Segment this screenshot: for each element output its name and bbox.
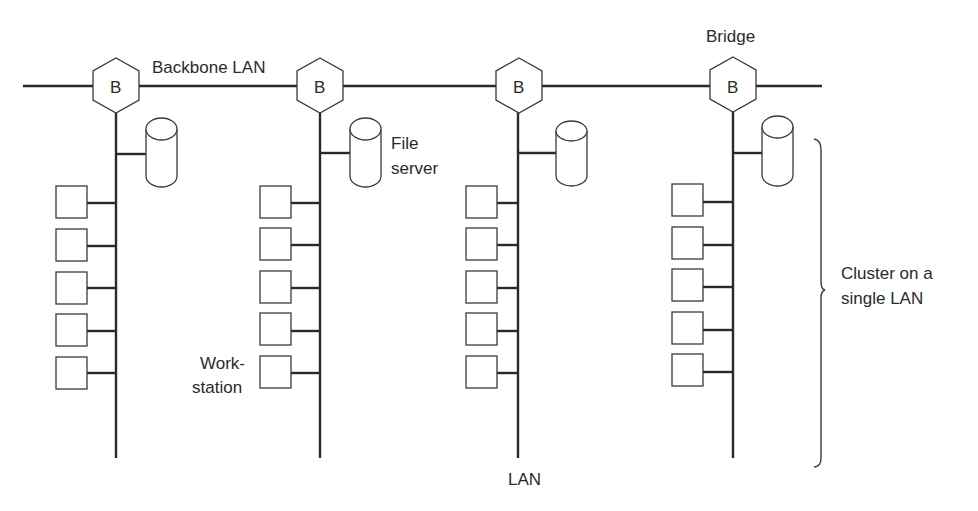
bridge-label: Bridge (706, 27, 755, 46)
workstation-icon (56, 314, 87, 346)
workstation-icon (56, 229, 87, 261)
workstation-icon (672, 269, 703, 301)
bridge-symbol: B (110, 78, 121, 97)
cluster-3: B LAN (466, 58, 587, 489)
workstation-icon (466, 356, 497, 388)
file-server-icon (146, 118, 177, 187)
file-server-icon (556, 121, 587, 186)
workstation-icon (260, 271, 291, 303)
cluster-label: Cluster on a (841, 264, 933, 283)
workstation-icon (672, 312, 703, 344)
workstation-icon (466, 271, 497, 303)
file-server-icon (762, 116, 793, 186)
workstation-group (672, 184, 733, 386)
cluster-4: B (672, 57, 793, 458)
backbone-lan-label: Backbone LAN (152, 58, 265, 77)
workstation-icon (672, 354, 703, 386)
cluster-1: B (56, 58, 177, 458)
file-server-label: File (391, 134, 418, 153)
workstation-group (56, 186, 116, 389)
workstation-icon (260, 186, 291, 218)
cluster-brace (814, 139, 825, 467)
workstation-label: Work- (200, 354, 245, 373)
lan-cluster-diagram: Backbone LAN Bridge B B (0, 0, 978, 511)
cluster-label: single LAN (841, 289, 923, 308)
workstation-icon (260, 228, 291, 260)
workstation-icon (260, 356, 291, 388)
file-server-icon (350, 118, 381, 187)
bridge-symbol: B (513, 78, 524, 97)
workstation-group (260, 186, 320, 388)
workstation-icon (466, 313, 497, 345)
bridge-symbol: B (314, 78, 325, 97)
lan-label: LAN (508, 470, 541, 489)
workstation-icon (260, 313, 291, 345)
workstation-icon (672, 227, 703, 259)
workstation-icon (56, 186, 87, 218)
workstation-icon (466, 228, 497, 260)
workstation-label: station (192, 378, 242, 397)
workstation-group (466, 186, 518, 388)
bridge-symbol: B (727, 78, 738, 97)
cluster-2: B File server Work- station (192, 58, 439, 458)
file-server-label: server (391, 159, 439, 178)
workstation-icon (56, 272, 87, 304)
workstation-icon (672, 184, 703, 216)
workstation-icon (466, 186, 497, 218)
workstation-icon (56, 357, 87, 389)
